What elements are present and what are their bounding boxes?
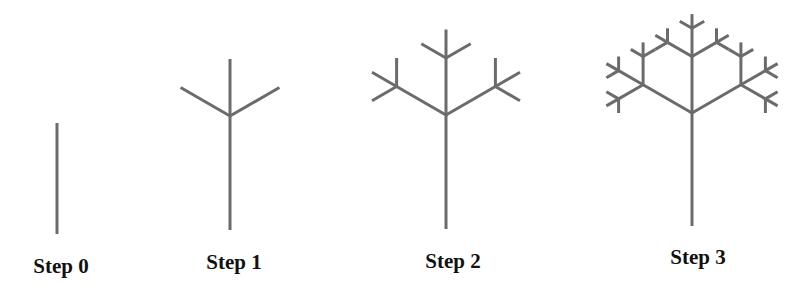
step-3-label: Step 3 bbox=[670, 247, 725, 268]
branch-line bbox=[692, 21, 704, 28]
branch-line bbox=[655, 35, 667, 42]
branch-line bbox=[230, 88, 279, 117]
branch-line bbox=[717, 35, 729, 42]
step-2-label: Step 2 bbox=[425, 251, 480, 272]
branch-line bbox=[606, 71, 618, 78]
step-1-label: Step 1 bbox=[206, 252, 261, 273]
tree-step-2 bbox=[372, 30, 520, 230]
branch-line bbox=[668, 42, 693, 56]
branch-line bbox=[692, 85, 741, 113]
branch-line bbox=[680, 21, 692, 28]
branch-line bbox=[606, 64, 618, 71]
branch-line bbox=[181, 88, 230, 117]
branch-line bbox=[619, 71, 644, 85]
branch-line bbox=[643, 85, 692, 113]
branch-line bbox=[741, 85, 766, 99]
branch-line bbox=[765, 99, 777, 106]
tree-step-1 bbox=[181, 59, 280, 230]
branch-line bbox=[619, 85, 644, 99]
branch-line bbox=[372, 72, 397, 86]
branch-line bbox=[765, 64, 777, 71]
tree-step-3 bbox=[606, 14, 777, 226]
branch-line bbox=[446, 44, 471, 58]
branch-line bbox=[606, 92, 618, 99]
branch-line bbox=[606, 99, 618, 106]
branch-line bbox=[729, 49, 741, 56]
branch-line bbox=[717, 42, 729, 49]
branch-line bbox=[741, 71, 766, 85]
branch-line bbox=[655, 42, 667, 49]
branch-line bbox=[495, 72, 520, 86]
branch-line bbox=[446, 87, 495, 116]
branch-line bbox=[631, 49, 643, 56]
branch-line bbox=[372, 87, 397, 101]
step-0-label: Step 0 bbox=[33, 256, 88, 277]
branch-line bbox=[495, 87, 520, 101]
branch-line bbox=[692, 42, 717, 56]
branch-line bbox=[421, 44, 446, 58]
branch-line bbox=[643, 49, 655, 56]
branch-line bbox=[741, 49, 753, 56]
branch-line bbox=[765, 92, 777, 99]
branch-line bbox=[765, 71, 777, 78]
branch-line bbox=[397, 87, 446, 116]
